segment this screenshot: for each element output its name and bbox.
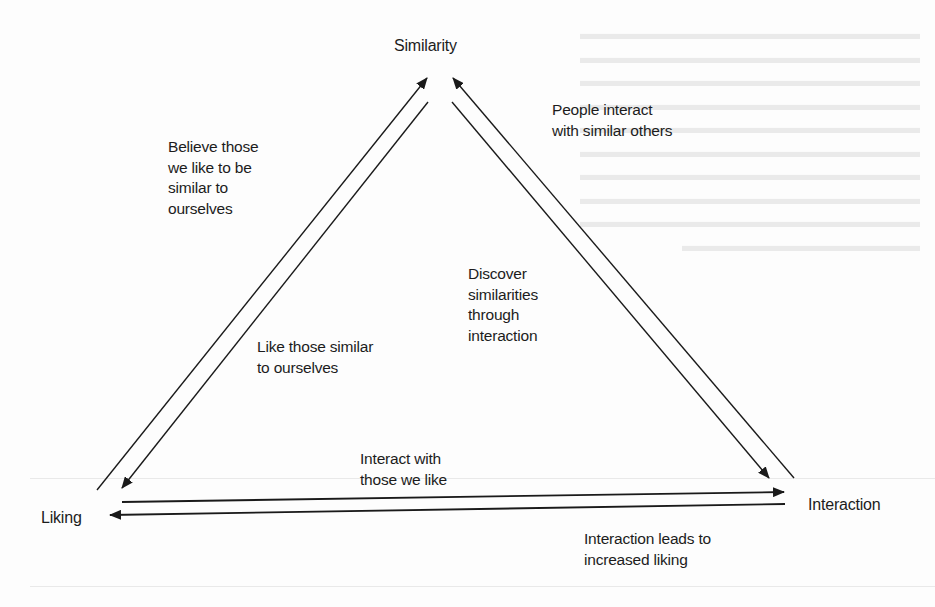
label-line: Discover — [468, 264, 538, 285]
arrow-liking-to-interaction — [122, 492, 784, 502]
arrow-liking-to-similarity — [97, 78, 427, 490]
label-like-those-similar: Like those similar to ourselves — [257, 337, 373, 378]
label-line: through — [468, 305, 538, 326]
node-similarity: Similarity — [394, 36, 457, 56]
arrow-interaction-to-liking — [110, 504, 785, 515]
label-line: Interact with — [360, 449, 447, 470]
label-line: ourselves — [168, 199, 258, 220]
label-people-interact: People interact with similar others — [552, 100, 672, 141]
label-discover-similarities: Discover similarities through interactio… — [468, 264, 538, 346]
node-liking: Liking — [41, 508, 82, 528]
label-believe-those-we-like: Believe those we like to be similar to o… — [168, 137, 258, 219]
scanned-page: ▬▬▬▬▬▬▬▬▬▬▬▬▬▬▬▬▬▬▬▬ ▬▬▬▬▬▬▬▬▬▬▬▬▬▬▬▬▬▬▬… — [0, 0, 935, 607]
label-line: Believe those — [168, 137, 258, 158]
label-line: similar to — [168, 178, 258, 199]
label-line: those we like — [360, 470, 447, 491]
label-line: similarities — [468, 285, 538, 306]
label-line: Like those similar — [257, 337, 373, 358]
label-line: with similar others — [552, 121, 672, 142]
node-interaction: Interaction — [808, 495, 881, 515]
label-line: Interaction leads to — [584, 529, 711, 550]
label-line: we like to be — [168, 158, 258, 179]
label-line: to ourselves — [257, 358, 373, 379]
label-interaction-leads-to-liking: Interaction leads to increased liking — [584, 529, 711, 570]
label-line: interaction — [468, 326, 538, 347]
label-line: People interact — [552, 100, 672, 121]
label-line: increased liking — [584, 550, 711, 571]
label-interact-with-those-we-like: Interact with those we like — [360, 449, 447, 490]
